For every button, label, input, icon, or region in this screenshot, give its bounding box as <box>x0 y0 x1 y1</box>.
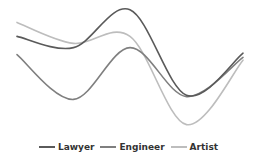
legend-label-engineer: Engineer <box>119 142 164 152</box>
series-line-artist <box>17 22 243 124</box>
legend-item-engineer: Engineer <box>100 142 164 152</box>
legend-swatch-artist <box>171 146 187 148</box>
legend-swatch-lawyer <box>39 146 55 148</box>
series-line-lawyer <box>17 9 243 96</box>
series-line-engineer <box>17 48 243 100</box>
chart-legend: Lawyer Engineer Artist <box>0 139 257 155</box>
legend-item-artist: Artist <box>171 142 218 152</box>
legend-item-lawyer: Lawyer <box>39 142 95 152</box>
legend-label-lawyer: Lawyer <box>58 142 95 152</box>
series-layer <box>17 9 243 125</box>
legend-swatch-engineer <box>100 146 116 148</box>
legend-label-artist: Artist <box>190 142 218 152</box>
line-chart <box>0 0 257 159</box>
